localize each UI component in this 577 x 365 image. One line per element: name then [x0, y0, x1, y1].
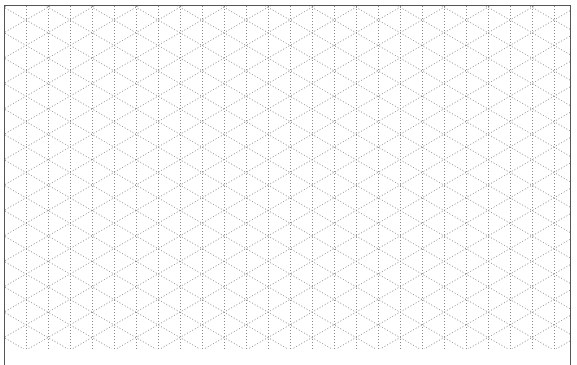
page-frame-border	[4, 5, 571, 365]
